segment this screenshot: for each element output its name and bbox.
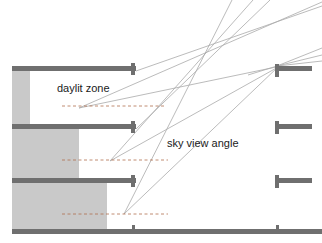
ground-slab-tick-right <box>276 225 279 231</box>
section-drawing-canvas: daylit zone sky view angle <box>0 0 322 243</box>
ray-top-1 <box>79 2 322 108</box>
floor-slab-1-edge-tick <box>131 175 135 187</box>
daylit-zone-bottom-fill <box>12 182 107 230</box>
right-slab-1-edge-tick <box>275 175 279 188</box>
right-building-slabs <box>275 64 312 188</box>
ground-slab-tick-left <box>132 225 135 231</box>
left-exterior-wall <box>12 66 16 71</box>
daylit-zone-label: daylit zone <box>57 82 110 94</box>
roof-slab-edge-tick <box>131 63 135 75</box>
right-slab-2 <box>277 124 312 129</box>
architectural-section-diagram: daylit zone sky view angle <box>0 0 322 243</box>
right-slab-2-edge-tick <box>275 121 279 134</box>
ray-upper-2 <box>136 0 270 129</box>
roof-slab <box>12 66 136 71</box>
daylit-zone-top-fill <box>12 70 30 125</box>
sky-view-angle-label: sky view angle <box>167 137 239 149</box>
right-slab-3 <box>277 66 312 71</box>
right-slab-1 <box>277 178 312 183</box>
right-slab-3-edge-tick <box>275 64 279 77</box>
floor-slab-1 <box>12 178 136 183</box>
ground-slab <box>12 229 322 234</box>
daylit-zone-fills <box>12 70 107 230</box>
floor-slab-2-edge-tick <box>131 121 135 133</box>
ray-upper-1 <box>136 6 322 71</box>
ray-bot-1 <box>124 0 232 214</box>
floor-slab-2 <box>12 124 136 129</box>
daylit-zone-middle-fill <box>12 128 79 179</box>
